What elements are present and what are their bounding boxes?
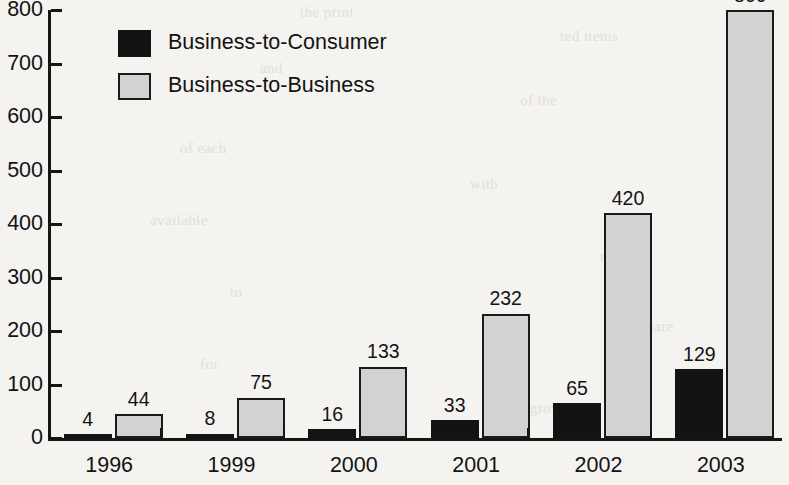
x-axis-label-2000: 2000 bbox=[293, 455, 415, 477]
bar-value-label: 133 bbox=[345, 342, 421, 362]
bar-b2c-2000 bbox=[308, 429, 356, 438]
y-axis-tick-label: 700 bbox=[1, 53, 43, 75]
grouped-bar-chart: 8007006005004003002001000 44487516133332… bbox=[0, 0, 789, 485]
x-axis-group-separator bbox=[160, 428, 162, 438]
bar-b2c-1996 bbox=[64, 434, 112, 438]
y-axis-tick bbox=[51, 63, 62, 66]
x-axis-label-1996: 1996 bbox=[48, 455, 170, 477]
y-axis-tick bbox=[51, 116, 62, 119]
bar-value-label: 800 bbox=[712, 0, 788, 5]
y-axis-tick-label: 0 bbox=[1, 427, 43, 449]
x-axis-line bbox=[48, 438, 782, 441]
legend-label-b2b: Business-to-Business bbox=[168, 75, 375, 97]
x-axis-group-separator bbox=[405, 428, 407, 438]
y-axis-tick-label: 400 bbox=[1, 213, 43, 235]
x-axis-label-1999: 1999 bbox=[170, 455, 292, 477]
bar-b2c-1999 bbox=[186, 434, 234, 438]
bar-b2c-2002 bbox=[553, 403, 601, 438]
bar-b2c-2001 bbox=[431, 420, 479, 438]
bar-b2b-1996 bbox=[115, 414, 163, 438]
y-axis-tick bbox=[51, 384, 62, 387]
y-axis-tick bbox=[51, 330, 62, 333]
y-axis-tick-label: 500 bbox=[1, 160, 43, 182]
legend-entry-b2c: Business-to-Consumer bbox=[118, 26, 387, 60]
y-axis-tick bbox=[51, 9, 62, 12]
y-axis-tick bbox=[51, 437, 62, 440]
x-axis-group-separator bbox=[283, 428, 285, 438]
legend-label-b2c: Business-to-Consumer bbox=[168, 32, 387, 54]
y-axis-tick bbox=[51, 170, 62, 173]
legend-swatch-icon-b2c bbox=[118, 30, 151, 57]
x-axis-group-separator bbox=[650, 428, 652, 438]
bar-b2b-1999 bbox=[237, 398, 285, 438]
x-axis-label-2002: 2002 bbox=[537, 455, 659, 477]
bar-value-label: 232 bbox=[468, 289, 544, 309]
chart-legend: Business-to-Consumer Business-to-Busines… bbox=[118, 26, 387, 112]
y-axis-tick-label: 100 bbox=[1, 374, 43, 396]
bar-b2b-2002 bbox=[604, 213, 652, 438]
bar-b2b-2001 bbox=[482, 314, 530, 438]
legend-entry-b2b: Business-to-Business bbox=[118, 69, 387, 103]
bar-b2c-2003 bbox=[675, 369, 723, 438]
y-axis-tick-label: 600 bbox=[1, 106, 43, 128]
x-axis-label-2001: 2001 bbox=[415, 455, 537, 477]
legend-swatch-icon-b2b bbox=[118, 73, 151, 100]
x-axis-label-2003: 2003 bbox=[660, 455, 782, 477]
x-axis-group-separator bbox=[527, 428, 529, 438]
bar-value-label: 75 bbox=[223, 373, 299, 393]
bar-b2b-2003 bbox=[726, 10, 774, 438]
y-axis-tick bbox=[51, 277, 62, 280]
bar-value-label: 44 bbox=[101, 390, 177, 410]
y-axis-tick-label: 300 bbox=[1, 267, 43, 289]
y-axis-tick-label: 800 bbox=[1, 0, 43, 21]
y-axis-tick bbox=[51, 223, 62, 226]
bar-value-label: 420 bbox=[590, 189, 666, 209]
bar-b2b-2000 bbox=[359, 367, 407, 438]
y-axis-tick-label: 200 bbox=[1, 320, 43, 342]
